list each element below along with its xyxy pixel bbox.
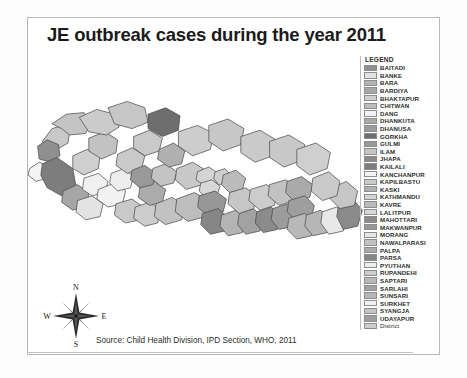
legend-item[interactable]: BHAKTAPUR: [361, 94, 440, 102]
legend-item[interactable]: BARA: [361, 79, 440, 87]
legend-item[interactable]: KAILALI: [361, 163, 440, 171]
map-region-central-north-b[interactable]: [209, 119, 244, 151]
legend-item-label: KAILALI: [380, 163, 405, 170]
source-note: Source: Child Health Division, IPD Secti…: [96, 336, 297, 345]
legend-item-label: BAITADI: [380, 64, 405, 71]
legend-swatch: [364, 103, 377, 109]
source-divider: [28, 352, 413, 353]
legend-item[interactable]: KATHMANDU: [361, 193, 440, 201]
legend-item[interactable]: District: [361, 322, 440, 330]
legend-item[interactable]: JHAPA: [361, 155, 440, 163]
legend-item-label: GORKHA: [380, 133, 408, 140]
legend-item-label: District: [380, 322, 399, 329]
legend-item[interactable]: SYANGJA: [361, 307, 440, 315]
legend-swatch: [364, 254, 377, 260]
legend-title: LEGEND: [365, 56, 440, 63]
legend-item[interactable]: KANCHANPUR: [361, 170, 440, 178]
legend-swatch: [364, 72, 377, 78]
legend-item[interactable]: GORKHA: [361, 132, 440, 140]
legend-item[interactable]: GULMI: [361, 140, 440, 148]
legend-item-label: BARA: [380, 79, 398, 86]
legend-item[interactable]: MAHOTTARI: [361, 216, 440, 224]
nepal-district-map: [28, 55, 368, 295]
legend-item[interactable]: BANKE: [361, 72, 440, 80]
legend-item-label: LALITPUR: [380, 209, 411, 216]
legend-item-label: KASKI: [380, 186, 399, 193]
legend-item[interactable]: PYUTHAN: [361, 261, 440, 269]
legend-item-label: KAVRE: [380, 201, 401, 208]
legend-item[interactable]: KASKI: [361, 186, 440, 194]
legend-swatch: [364, 110, 377, 116]
choropleth-map[interactable]: [28, 55, 368, 295]
legend-swatch: [364, 209, 377, 215]
legend-swatch: [364, 270, 377, 276]
legend-swatch: [364, 148, 377, 154]
legend-item[interactable]: SURKHET: [361, 299, 440, 307]
legend-item[interactable]: PALPA: [361, 246, 440, 254]
legend-swatch: [364, 247, 377, 253]
map-region-east-hill-c[interactable]: [311, 172, 340, 201]
legend-swatch: [364, 186, 377, 192]
legend-item[interactable]: BAITADI: [361, 64, 440, 72]
legend-item-label: UDAYAPUR: [380, 315, 414, 322]
legend-swatch: [364, 224, 377, 230]
legend-item-label: SYANGJA: [380, 307, 410, 314]
legend-item-label: PYUTHAN: [380, 262, 410, 269]
legend-swatch: [364, 179, 377, 185]
legend-item[interactable]: KAVRE: [361, 201, 440, 209]
legend-item-label: DHANUSA: [380, 125, 411, 132]
legend-item[interactable]: PARSA: [361, 254, 440, 262]
compass-east-label: E: [102, 312, 107, 321]
legend: LEGEND BAITADIBANKEBARABARDIYABHAKTAPURC…: [360, 56, 440, 330]
legend-swatch: [364, 292, 377, 298]
legend-swatch: [364, 163, 377, 169]
legend-item[interactable]: SAPTARI: [361, 277, 440, 285]
legend-item-label: DANG: [380, 110, 398, 117]
legend-swatch: [364, 194, 377, 200]
legend-swatch: [364, 133, 377, 139]
legend-swatch: [364, 87, 377, 93]
legend-item-label: PARSA: [380, 254, 401, 261]
legend-item[interactable]: UDAYAPUR: [361, 315, 440, 323]
compass-west-label: W: [43, 312, 51, 321]
legend-item-label: ILAM: [380, 148, 395, 155]
legend-item-label: BHAKTAPUR: [380, 95, 419, 102]
legend-swatch: [364, 285, 377, 291]
legend-swatch: [364, 80, 377, 86]
legend-item-label: RUPANDEHI: [380, 269, 417, 276]
legend-swatch: [364, 125, 377, 131]
legend-swatch: [364, 300, 377, 306]
legend-item[interactable]: BARDIYA: [361, 87, 440, 95]
legend-item[interactable]: MORANG: [361, 231, 440, 239]
page-title: JE outbreak cases during the year 2011: [47, 24, 386, 46]
legend-item[interactable]: MAKWANPUR: [361, 223, 440, 231]
legend-item-label: BARDIYA: [380, 87, 408, 94]
legend-swatch: [364, 201, 377, 207]
legend-swatch: [364, 216, 377, 222]
legend-item-label: MORANG: [380, 231, 408, 238]
legend-item[interactable]: KAPILBASTU: [361, 178, 440, 186]
legend-item[interactable]: RUPANDEHI: [361, 269, 440, 277]
legend-item[interactable]: DHANUSA: [361, 125, 440, 133]
legend-item[interactable]: CHITWAN: [361, 102, 440, 110]
legend-item[interactable]: SUNSARI: [361, 292, 440, 300]
legend-item[interactable]: LALITPUR: [361, 208, 440, 216]
legend-item-label: GULMI: [380, 140, 400, 147]
legend-item-label: KATHMANDU: [380, 193, 420, 200]
legend-item[interactable]: SARLAHI: [361, 284, 440, 292]
legend-item-label: MAKWANPUR: [380, 224, 422, 231]
legend-item[interactable]: DHANKUTA: [361, 117, 440, 125]
legend-item[interactable]: DANG: [361, 110, 440, 118]
legend-swatch: [364, 262, 377, 268]
map-region-east-north-c[interactable]: [297, 143, 331, 175]
legend-swatch: [364, 65, 377, 71]
legend-swatch: [364, 171, 377, 177]
legend-swatch: [364, 232, 377, 238]
legend-item-label: SUNSARI: [380, 292, 408, 299]
legend-item[interactable]: NAWALPARASI: [361, 239, 440, 247]
legend-item[interactable]: ILAM: [361, 148, 440, 156]
legend-swatch: [364, 141, 377, 147]
legend-swatch: [364, 118, 377, 124]
legend-item-label: DHANKUTA: [380, 117, 415, 124]
legend-item-label: PALPA: [380, 247, 400, 254]
